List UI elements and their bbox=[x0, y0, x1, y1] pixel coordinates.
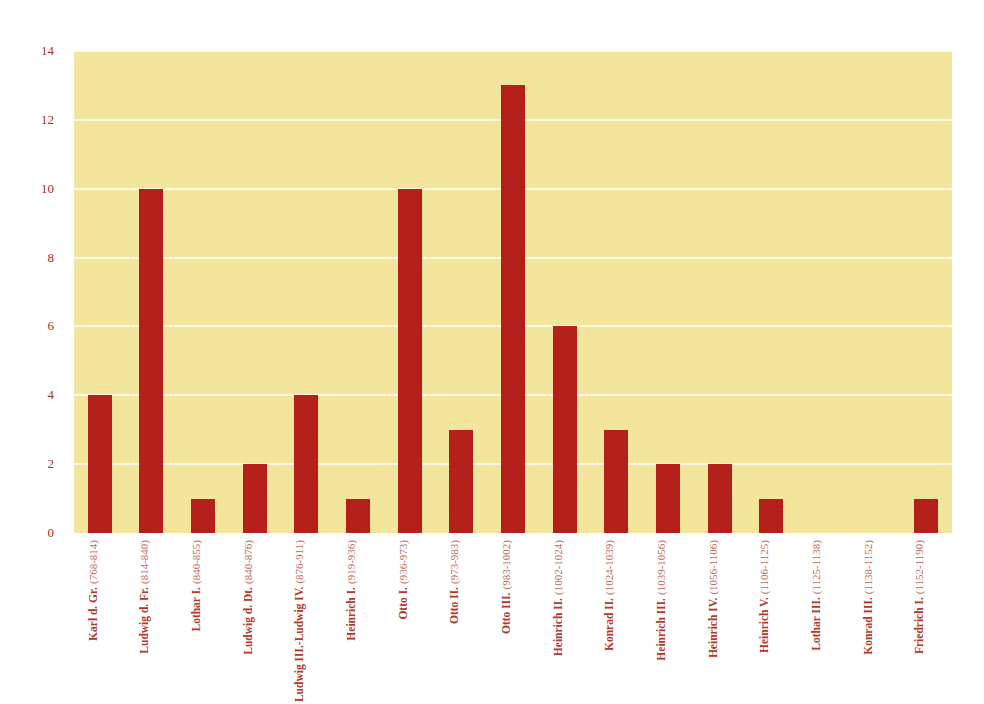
gridline bbox=[74, 51, 952, 52]
x-axis-label: Otto III.(983-1002) bbox=[500, 540, 526, 700]
x-axis-label-name: Ludwig III.-Ludwig IV. bbox=[293, 587, 305, 702]
x-axis-labels: Karl d. Gr.(768-814)Ludwig d. Fr.(814-84… bbox=[74, 540, 952, 704]
x-axis-label-name: Otto I. bbox=[397, 587, 409, 620]
x-axis-label: Konrad II.(1024-1039) bbox=[603, 540, 629, 700]
x-axis-label: Lothar I.(840-855) bbox=[190, 540, 216, 700]
y-tick-label: 14 bbox=[41, 43, 54, 59]
x-axis-label-years: (919-936) bbox=[345, 540, 357, 584]
y-axis-ticks: 02468101214 bbox=[0, 51, 64, 533]
x-axis-label-name: Ludwig d. Dt. bbox=[242, 587, 254, 655]
x-axis-label: Ludwig III.-Ludwig IV.(876-911) bbox=[293, 540, 319, 700]
x-axis-label: Konrad III.(1138-1152) bbox=[862, 540, 888, 700]
x-axis-label-name: Heinrich V. bbox=[758, 597, 770, 653]
x-axis-label: Friedrich I.(1152-1190) bbox=[913, 540, 939, 700]
x-axis-label-years: (1002-1024) bbox=[552, 540, 564, 595]
bar[interactable] bbox=[449, 430, 473, 533]
bar[interactable] bbox=[553, 326, 577, 533]
x-axis-label-years: (1106-1125) bbox=[758, 540, 770, 594]
x-axis-label: Heinrich II.(1002-1024) bbox=[552, 540, 578, 700]
bar[interactable] bbox=[294, 395, 318, 533]
x-axis-label: Karl d. Gr.(768-814) bbox=[87, 540, 113, 700]
bar[interactable] bbox=[139, 189, 163, 533]
y-tick-label: 6 bbox=[48, 318, 55, 334]
y-tick-label: 8 bbox=[48, 250, 55, 266]
x-axis-label-name: Heinrich I. bbox=[345, 587, 357, 641]
bar[interactable] bbox=[191, 499, 215, 533]
x-axis-label-name: Heinrich II. bbox=[552, 598, 564, 656]
x-axis-label-years: (876-911) bbox=[293, 540, 305, 584]
x-axis-label-years: (1024-1039) bbox=[603, 540, 615, 595]
bar[interactable] bbox=[914, 499, 938, 533]
x-axis-label-years: (814-840) bbox=[138, 540, 150, 584]
x-axis-label: Heinrich III.(1039-1056) bbox=[655, 540, 681, 700]
y-tick-label: 0 bbox=[48, 525, 55, 541]
x-axis-label-name: Konrad II. bbox=[603, 598, 615, 651]
x-axis-label: Otto II.(973-983) bbox=[448, 540, 474, 700]
x-axis-label-years: (1152-1190) bbox=[913, 540, 925, 594]
x-axis-label: Heinrich I.(919-936) bbox=[345, 540, 371, 700]
bar[interactable] bbox=[708, 464, 732, 533]
bar[interactable] bbox=[656, 464, 680, 533]
bar[interactable] bbox=[759, 499, 783, 533]
x-axis-label-years: (973-983) bbox=[448, 540, 460, 584]
x-axis-label-name: Heinrich III. bbox=[655, 598, 667, 661]
x-axis-label-name: Lothar I. bbox=[190, 587, 202, 632]
y-tick-label: 4 bbox=[48, 387, 55, 403]
x-axis-label-name: Heinrich IV. bbox=[707, 598, 719, 659]
x-axis-label: Heinrich IV.(1056-1106) bbox=[707, 540, 733, 700]
x-axis-label-name: Konrad III. bbox=[862, 597, 874, 655]
x-axis-label-name: Friedrich I. bbox=[913, 597, 925, 654]
x-axis-label: Lothar III.(1125-1138) bbox=[810, 540, 836, 700]
x-axis-label: Otto I.(936-973) bbox=[397, 540, 423, 700]
bar-chart: 02468101214 Karl d. Gr.(768-814)Ludwig d… bbox=[0, 0, 984, 704]
x-axis-label-name: Otto II. bbox=[448, 587, 460, 624]
x-axis-label: Ludwig d. Fr.(814-840) bbox=[138, 540, 164, 700]
x-axis-label-years: (1138-1152) bbox=[862, 540, 874, 594]
x-axis-label-years: (840-876) bbox=[242, 540, 254, 584]
x-axis-label-years: (1056-1106) bbox=[707, 540, 719, 595]
x-axis-label-years: (768-814) bbox=[87, 540, 99, 584]
bar[interactable] bbox=[501, 85, 525, 533]
x-axis-label: Ludwig d. Dt.(840-876) bbox=[242, 540, 268, 700]
x-axis-label-name: Lothar III. bbox=[810, 597, 822, 650]
x-axis-label-years: (1039-1056) bbox=[655, 540, 667, 595]
x-axis-label: Heinrich V.(1106-1125) bbox=[758, 540, 784, 700]
x-axis-label-years: (936-973) bbox=[397, 540, 409, 584]
x-axis-label-name: Ludwig d. Fr. bbox=[138, 587, 150, 654]
bar[interactable] bbox=[604, 430, 628, 533]
bar[interactable] bbox=[243, 464, 267, 533]
x-axis-label-name: Karl d. Gr. bbox=[87, 587, 99, 641]
x-axis-label-years: (983-1002) bbox=[500, 540, 512, 590]
y-tick-label: 12 bbox=[41, 112, 54, 128]
x-axis-label-name: Otto III. bbox=[500, 593, 512, 635]
bar[interactable] bbox=[346, 499, 370, 533]
y-tick-label: 2 bbox=[48, 456, 55, 472]
y-tick-label: 10 bbox=[41, 181, 54, 197]
bar[interactable] bbox=[398, 189, 422, 533]
x-axis-label-years: (1125-1138) bbox=[810, 540, 822, 594]
bar[interactable] bbox=[88, 395, 112, 533]
x-axis-label-years: (840-855) bbox=[190, 540, 202, 584]
